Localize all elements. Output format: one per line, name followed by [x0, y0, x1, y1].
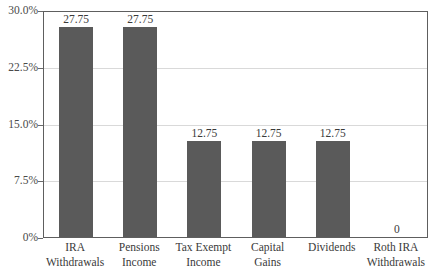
bar [316, 141, 350, 237]
y-tick-label: 15.0% [0, 119, 38, 131]
bar-group: 27.75 [108, 12, 172, 237]
x-category-line1: Tax Exempt [171, 240, 235, 255]
bar [59, 27, 93, 237]
x-category-label: CapitalGains [236, 240, 300, 270]
x-category-label: Tax ExemptIncome [171, 240, 235, 270]
x-axis: IRAWithdrawalsPensionsIncomeTax ExemptIn… [43, 240, 428, 277]
bar [252, 141, 286, 237]
bar-group: 0 [365, 12, 429, 237]
bar-value-label: 12.75 [256, 127, 282, 139]
bar-group: 12.75 [237, 12, 301, 237]
x-category-label: PensionsIncome [107, 240, 171, 270]
x-category-line2: Income [107, 255, 171, 270]
y-tick-label: 0% [0, 232, 38, 244]
bar [187, 141, 221, 237]
x-category-line2: Income [171, 255, 235, 270]
x-category-line1: IRA [43, 240, 107, 255]
bar-group: 12.75 [301, 12, 365, 237]
bar-value-label: 12.75 [320, 127, 346, 139]
x-category-label: Roth IRAWithdrawals [364, 240, 428, 270]
x-category-line1: Dividends [300, 240, 364, 255]
x-category-line2: Gains [236, 255, 300, 270]
bar-group: 12.75 [172, 12, 236, 237]
y-tick-label: 7.5% [0, 175, 38, 187]
bar-value-label: 27.75 [63, 13, 89, 25]
y-tick-label: 30.0% [0, 5, 38, 17]
bar-value-label: 0 [394, 223, 400, 235]
x-category-label: IRAWithdrawals [43, 240, 107, 270]
bar [123, 27, 157, 237]
bar-chart: 30.0% 22.5% 15.0% 7.5% 0% 27.7527.7512.7… [0, 0, 442, 277]
bar-value-label: 27.75 [127, 13, 153, 25]
bar-group: 27.75 [44, 12, 108, 237]
y-tick-mark [38, 238, 43, 239]
plot-area: 27.7527.7512.7512.7512.750 [43, 11, 428, 238]
y-axis: 30.0% 22.5% 15.0% 7.5% 0% [0, 0, 38, 277]
y-tick-label: 22.5% [0, 62, 38, 74]
bars-layer: 27.7527.7512.7512.7512.750 [44, 12, 427, 237]
x-category-line1: Pensions [107, 240, 171, 255]
bar-value-label: 12.75 [191, 127, 217, 139]
x-category-line1: Roth IRA [364, 240, 428, 255]
x-category-label: Dividends [300, 240, 364, 255]
x-category-line2: Withdrawals [364, 255, 428, 270]
x-category-line1: Capital [236, 240, 300, 255]
x-category-line2: Withdrawals [43, 255, 107, 270]
